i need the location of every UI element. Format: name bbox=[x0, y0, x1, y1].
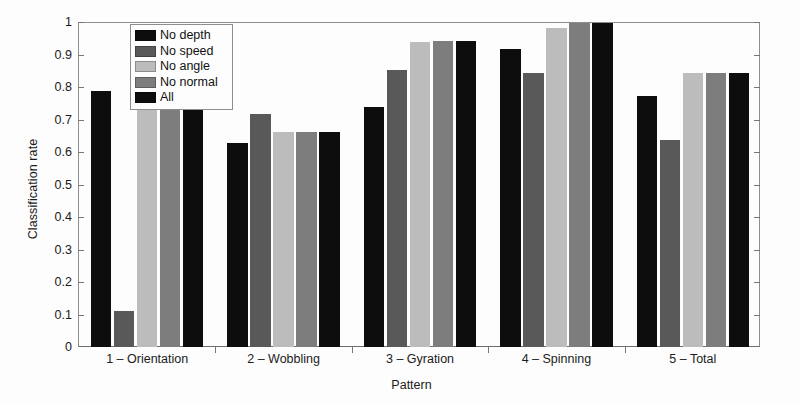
x-tick-label: 4 – Spinning bbox=[522, 352, 592, 366]
y-tick-mark bbox=[754, 250, 760, 251]
chart-legend: No depthNo speedNo angleNo normalAll bbox=[130, 24, 233, 110]
x-tick-mark bbox=[488, 347, 489, 353]
bar bbox=[296, 132, 317, 347]
bar bbox=[364, 107, 385, 347]
x-tick-label: 3 – Gyration bbox=[386, 352, 454, 366]
x-tick-mark bbox=[215, 347, 216, 353]
bar bbox=[137, 104, 158, 347]
legend-item-label: No angle bbox=[160, 60, 210, 73]
y-tick-mark bbox=[78, 55, 84, 56]
legend-item: No normal bbox=[135, 75, 228, 90]
legend-swatch-icon bbox=[135, 92, 156, 103]
y-tick-label: 0.5 bbox=[0, 178, 72, 192]
bar bbox=[114, 311, 135, 347]
legend-item-label: All bbox=[160, 91, 174, 104]
bar bbox=[183, 104, 204, 347]
legend-item-label: No speed bbox=[160, 45, 214, 58]
bar bbox=[250, 114, 271, 347]
bar bbox=[319, 132, 340, 347]
legend-item: No depth bbox=[135, 28, 228, 43]
y-tick-mark bbox=[78, 87, 84, 88]
legend-swatch-icon bbox=[135, 46, 156, 57]
y-tick-mark bbox=[78, 185, 84, 186]
bar bbox=[729, 73, 750, 347]
bar bbox=[160, 104, 181, 347]
y-tick-mark bbox=[78, 282, 84, 283]
y-tick-mark bbox=[78, 22, 84, 23]
bar bbox=[500, 49, 521, 347]
bar bbox=[273, 132, 294, 347]
figure-canvas: Classification rate 00.10.20.30.40.50.60… bbox=[0, 0, 799, 404]
y-tick-label: 0.8 bbox=[0, 80, 72, 94]
y-tick-mark bbox=[754, 185, 760, 186]
legend-swatch-icon bbox=[135, 77, 156, 88]
y-tick-mark bbox=[78, 217, 84, 218]
y-tick-label: 0.1 bbox=[0, 308, 72, 322]
y-tick-mark bbox=[754, 87, 760, 88]
x-tick-mark bbox=[352, 347, 353, 353]
bar bbox=[410, 42, 431, 347]
y-tick-mark bbox=[754, 55, 760, 56]
legend-item: No speed bbox=[135, 44, 228, 59]
y-tick-label: 0 bbox=[0, 340, 72, 354]
bar bbox=[387, 70, 408, 347]
bar bbox=[660, 140, 681, 347]
y-tick-mark bbox=[754, 217, 760, 218]
bar bbox=[706, 73, 727, 347]
x-tick-mark bbox=[625, 347, 626, 353]
y-tick-mark bbox=[754, 152, 760, 153]
y-tick-label: 0.4 bbox=[0, 210, 72, 224]
bar bbox=[456, 41, 477, 347]
bar bbox=[592, 23, 613, 347]
bar bbox=[683, 73, 704, 347]
y-tick-mark bbox=[78, 152, 84, 153]
x-axis-label: Pattern bbox=[63, 378, 760, 392]
y-tick-label: 0.2 bbox=[0, 275, 72, 289]
legend-item: No angle bbox=[135, 59, 228, 74]
y-tick-mark bbox=[754, 120, 760, 121]
x-tick-label: 2 – Wobbling bbox=[247, 352, 320, 366]
x-tick-label: 1 – Orientation bbox=[106, 352, 188, 366]
y-tick-mark bbox=[78, 315, 84, 316]
bar bbox=[91, 91, 112, 347]
y-tick-mark bbox=[754, 22, 760, 23]
y-tick-mark bbox=[78, 250, 84, 251]
bar bbox=[227, 143, 248, 347]
x-tick-label: 5 – Total bbox=[669, 352, 716, 366]
y-tick-mark bbox=[754, 315, 760, 316]
legend-swatch-icon bbox=[135, 61, 156, 72]
legend-item-label: No depth bbox=[160, 29, 211, 42]
y-tick-label: 0.7 bbox=[0, 113, 72, 127]
bar bbox=[433, 41, 454, 347]
legend-item: All bbox=[135, 90, 228, 105]
y-tick-mark bbox=[78, 120, 84, 121]
bar bbox=[523, 73, 544, 347]
legend-item-label: No normal bbox=[160, 76, 218, 89]
legend-swatch-icon bbox=[135, 30, 156, 41]
bar bbox=[569, 23, 590, 347]
y-tick-label: 0.3 bbox=[0, 243, 72, 257]
y-tick-mark bbox=[754, 282, 760, 283]
y-tick-label: 1 bbox=[0, 15, 72, 29]
bar bbox=[637, 96, 658, 347]
y-tick-label: 0.6 bbox=[0, 145, 72, 159]
y-tick-label: 0.9 bbox=[0, 48, 72, 62]
bar bbox=[546, 28, 567, 347]
